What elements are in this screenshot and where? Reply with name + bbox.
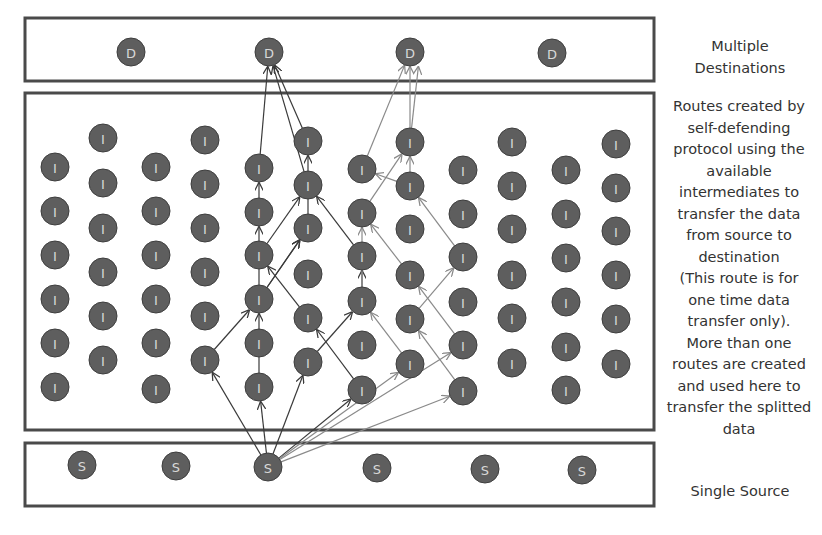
intermediate-node: I (396, 128, 424, 156)
description-line: one time data (656, 290, 822, 312)
intermediate-node: I (348, 376, 376, 404)
intermediate-node-letter: I (154, 205, 158, 220)
intermediate-node: I (142, 197, 170, 225)
intermediate-node: I (245, 329, 273, 357)
intermediate-node: I (498, 261, 526, 289)
description-line: available (656, 161, 822, 183)
route-segment (317, 197, 353, 245)
description-line: Routes created by (656, 96, 822, 118)
intermediate-node: I (449, 200, 477, 228)
intermediate-node-letter: I (408, 313, 412, 328)
description-line: intermediates to (656, 182, 822, 204)
intermediate-node: I (396, 261, 424, 289)
intermediate-node: I (191, 346, 219, 374)
intermediate-node: I (89, 302, 117, 330)
description-line: routes are created (656, 354, 822, 376)
intermediate-node-letter: I (101, 177, 105, 192)
intermediate-nodes: IIIIIIIIIIIIIIIIIIIIIIIIIIIIIIIIIIIIIIII… (41, 124, 630, 405)
route-segment (261, 402, 267, 453)
intermediate-node-letter: I (203, 178, 207, 193)
intermediate-node: I (142, 329, 170, 357)
source-node-letter: S (578, 464, 586, 479)
intermediate-node-letter: I (564, 164, 568, 179)
intermediate-node-letter: I (614, 225, 618, 240)
intermediate-node: I (41, 197, 69, 225)
destination-node: D (538, 39, 566, 67)
intermediate-node: I (89, 169, 117, 197)
intermediate-node-letter: I (408, 269, 412, 284)
intermediate-node-letter: I (360, 339, 364, 354)
intermediate-node: I (396, 215, 424, 243)
intermediate-node: I (396, 172, 424, 200)
intermediate-node-letter: I (360, 163, 364, 178)
intermediate-node-letter: I (101, 310, 105, 325)
intermediate-node: I (552, 333, 580, 361)
intermediate-node-letter: I (360, 295, 364, 310)
intermediate-node-letter: I (203, 354, 207, 369)
route-segment (412, 67, 419, 128)
description-line: transfer only). (656, 311, 822, 333)
destination-node-letter: D (547, 47, 557, 62)
intermediate-node-letter: I (360, 250, 364, 265)
intermediate-node-letter: I (564, 296, 568, 311)
intermediate-node-letter: I (360, 207, 364, 222)
route-segment (376, 174, 397, 181)
intermediate-node-letter: I (564, 252, 568, 267)
intermediate-node: I (245, 373, 273, 401)
intermediate-node-letter: I (461, 164, 465, 179)
source-node: S (471, 455, 499, 483)
description-line: from source to (656, 225, 822, 247)
description-line: protocol using the (656, 139, 822, 161)
intermediate-node-letter: I (101, 354, 105, 369)
intermediate-node: I (245, 285, 273, 313)
destinations-label-line: Destinations (660, 58, 820, 80)
intermediate-node-letter: I (510, 180, 514, 195)
intermediate-node-letter: I (53, 205, 57, 220)
intermediate-node-letter: I (306, 222, 310, 237)
intermediate-node-letter: I (510, 357, 514, 372)
route-segment (279, 373, 398, 459)
intermediate-node-letter: I (510, 136, 514, 151)
intermediate-node: I (89, 258, 117, 286)
intermediate-node-letter: I (614, 269, 618, 284)
intermediate-node-letter: I (154, 337, 158, 352)
route-segment (419, 287, 454, 334)
intermediate-node: I (294, 304, 322, 332)
intermediate-node: I (41, 373, 69, 401)
intermediate-node-letter: I (53, 161, 57, 176)
intermediate-node: I (449, 288, 477, 316)
intermediate-node: I (552, 244, 580, 272)
intermediate-node: I (142, 285, 170, 313)
intermediate-node-letter: I (203, 222, 207, 237)
destination-node-letter: D (264, 46, 274, 61)
intermediate-node-letter: I (614, 182, 618, 197)
intermediate-node-letter: I (154, 383, 158, 398)
intermediate-node: I (348, 155, 376, 183)
intermediate-node: I (245, 154, 273, 182)
intermediate-node: I (245, 198, 273, 226)
description-line: More than one (656, 333, 822, 355)
source-label: Single Source (660, 481, 820, 503)
intermediate-node: I (41, 153, 69, 181)
intermediate-node-letter: I (203, 134, 207, 149)
intermediate-node-letter: I (461, 208, 465, 223)
intermediate-node-letter: I (53, 337, 57, 352)
intermediate-node: I (294, 260, 322, 288)
intermediate-node: I (498, 128, 526, 156)
source-node: S (254, 453, 282, 481)
intermediate-node: I (602, 305, 630, 333)
route-segment (419, 331, 455, 380)
intermediate-node-letter: I (461, 251, 465, 266)
intermediate-node: I (348, 199, 376, 227)
intermediate-node: I (191, 258, 219, 286)
source-node: S (568, 456, 596, 484)
intermediate-node-letter: I (203, 266, 207, 281)
source-node: S (68, 451, 96, 479)
intermediate-node: I (191, 170, 219, 198)
intermediate-node-letter: I (154, 161, 158, 176)
intermediate-node: I (602, 217, 630, 245)
intermediate-node-letter: I (564, 341, 568, 356)
intermediate-node-letter: I (257, 337, 261, 352)
intermediate-node: I (294, 348, 322, 376)
intermediate-node-letter: I (306, 179, 310, 194)
